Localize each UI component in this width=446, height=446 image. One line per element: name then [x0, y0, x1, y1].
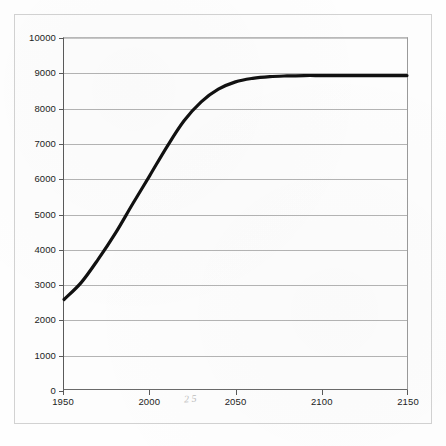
x-tick-label: 2100: [311, 396, 333, 407]
y-tick-label: 5000: [34, 208, 56, 219]
plot-area: [63, 37, 408, 390]
y-tick-label: 4000: [34, 243, 56, 254]
x-tick-label: 1950: [52, 396, 74, 407]
population-curve-path: [64, 76, 407, 300]
scan-artifact-text: 2 5: [184, 393, 197, 405]
y-tick-label: 6000: [34, 173, 56, 184]
x-tick-mark: [236, 390, 237, 395]
y-tick-label: 8000: [34, 102, 56, 113]
x-tick-mark: [407, 390, 408, 395]
x-axis-tick-labels: 19502000205021002150: [63, 396, 408, 414]
y-tick-label: 2000: [34, 314, 56, 325]
x-tick-mark: [322, 390, 323, 395]
x-tick-label: 2050: [225, 396, 247, 407]
y-tick-label: 10000: [29, 32, 56, 43]
population-curve: [64, 38, 407, 389]
x-tick-mark: [63, 390, 64, 395]
y-axis-tick-labels: 0100020003000400050006000700080009000100…: [0, 37, 56, 390]
y-tick-label: 7000: [34, 137, 56, 148]
chart-figure: 0100020003000400050006000700080009000100…: [0, 0, 446, 446]
y-tick-label: 9000: [34, 67, 56, 78]
x-tick-label: 2000: [138, 396, 160, 407]
x-tick-mark: [149, 390, 150, 395]
y-tick-label: 0: [51, 385, 56, 396]
y-tick-label: 1000: [34, 349, 56, 360]
x-tick-label: 2150: [397, 396, 419, 407]
y-tick-label: 3000: [34, 279, 56, 290]
